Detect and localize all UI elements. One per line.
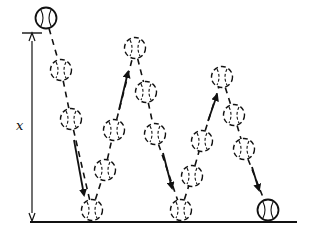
ball-icon bbox=[258, 200, 279, 221]
height-marker bbox=[22, 33, 42, 221]
ghost-ball-icon bbox=[145, 124, 166, 145]
ghost-ball-icon bbox=[61, 109, 82, 130]
ball-icon bbox=[36, 8, 57, 29]
arrow-down-icon bbox=[163, 153, 172, 188]
ghost-ball-icon bbox=[95, 160, 116, 181]
height-label: x bbox=[16, 118, 23, 133]
ghost-ball-icon bbox=[182, 166, 203, 187]
ghost-ball-icon bbox=[192, 131, 213, 152]
arrow-up-icon bbox=[208, 95, 217, 121]
ghost-ball-icon bbox=[82, 200, 103, 221]
ghost-ball-icon bbox=[104, 120, 125, 141]
arrow-down-icon bbox=[252, 167, 259, 190]
arrow-up-icon bbox=[119, 72, 128, 110]
ghost-ball-icon bbox=[234, 139, 255, 160]
ghost-ball-icon bbox=[125, 38, 146, 59]
bouncing-ball-diagram bbox=[0, 0, 311, 231]
ghost-ball-icon bbox=[136, 82, 157, 103]
ghost-ball-icon bbox=[51, 60, 72, 81]
ghost-ball-icon bbox=[224, 105, 245, 126]
ball-positions bbox=[36, 8, 279, 221]
ghost-ball-icon bbox=[212, 67, 233, 88]
ghost-ball-icon bbox=[171, 200, 192, 221]
